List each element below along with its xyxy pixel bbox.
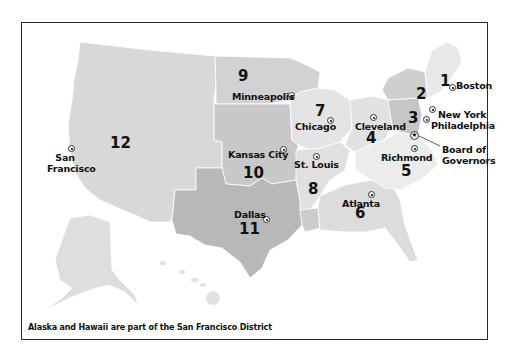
- district-number-2: 2: [416, 87, 426, 102]
- footnote: Alaska and Hawaii are part of the San Fr…: [28, 323, 272, 332]
- new-york-marker-icon[interactable]: [429, 106, 436, 113]
- city-label-philadelphia: Philadelphia: [431, 121, 495, 131]
- city-label-kansas-city: Kansas City: [228, 150, 288, 160]
- board-of-governors-label: Board of Governors: [442, 144, 495, 166]
- district-number-7: 7: [315, 104, 325, 119]
- cleveland-marker-icon[interactable]: [370, 114, 377, 121]
- district-number-12: 12: [110, 136, 131, 151]
- city-label-atlanta: Atlanta: [342, 199, 380, 209]
- district-number-10: 10: [243, 166, 264, 181]
- san-francisco-marker-icon[interactable]: [68, 145, 75, 152]
- san-francisco-text: San Francisco: [47, 152, 83, 174]
- city-label-new-york: New York: [438, 110, 486, 120]
- city-label-dallas: Dallas: [234, 210, 266, 220]
- district-number-3: 3: [408, 111, 418, 126]
- city-label-boston: Boston: [456, 81, 492, 91]
- city-label-chicago: Chicago: [295, 122, 336, 132]
- district-number-4: 4: [366, 131, 376, 146]
- richmond-marker-icon[interactable]: [411, 145, 418, 152]
- boston-marker-icon[interactable]: [449, 84, 456, 91]
- philadelphia-marker-icon[interactable]: [423, 116, 430, 123]
- city-label-minneapolis: Minneapolis: [232, 92, 294, 102]
- board-line-1: Board of: [442, 144, 495, 155]
- city-label-richmond: Richmond: [381, 153, 432, 163]
- alaska-region: [45, 215, 138, 310]
- district-number-9: 9: [238, 69, 248, 84]
- city-label-san-francisco: San Francisco: [47, 152, 83, 174]
- board-line-2: Governors: [442, 155, 495, 166]
- district-number-8: 8: [308, 182, 318, 197]
- atlanta-marker-icon[interactable]: [368, 191, 375, 198]
- city-label-st-louis: St. Louis: [294, 160, 339, 170]
- district-11-louisiana: [300, 208, 320, 232]
- district-number-5: 5: [401, 164, 411, 179]
- city-label-cleveland: Cleveland: [355, 122, 406, 132]
- board-of-governors-star-icon[interactable]: ★: [410, 131, 419, 140]
- hawaii-region: [160, 261, 220, 305]
- district-number-11: 11: [239, 222, 260, 237]
